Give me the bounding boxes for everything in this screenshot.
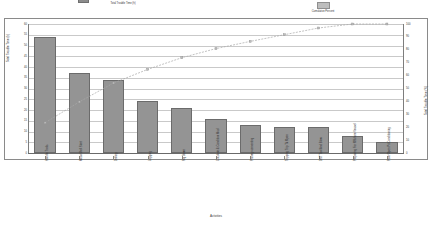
y-tick-label: 35 [24, 76, 27, 79]
x-tick-label: Drilling [115, 152, 118, 161]
cumulative-point [147, 68, 149, 70]
y-tick-label: 20 [24, 109, 27, 112]
y-tick-label: 55 [24, 33, 27, 36]
x-tick-labels: Handle TrailsMeso Well StartDrillingLogg… [28, 156, 404, 214]
cumulative-point [386, 23, 388, 25]
y-tick-label-right: 40 [406, 100, 409, 103]
cumulative-point [215, 48, 217, 50]
cumulative-point [352, 23, 354, 25]
chart-legend: Total Trouble Time (h) Cumulative Percen… [0, 2, 432, 18]
y-tick-label-right: 70 [406, 61, 409, 64]
y-tick-label: 0 [26, 152, 28, 155]
y-tick-label: 5 [26, 141, 28, 144]
cumulative-point [249, 40, 251, 42]
x-tick-label: Rig Down [183, 149, 186, 161]
x-tick-label: DST Tool And Blow [320, 137, 323, 161]
legend-label-line: Cumulative Percent [278, 10, 368, 13]
y-tick-label-right: 90 [406, 35, 409, 38]
x-tick-label: Tripping Trip Tk Open [286, 134, 289, 161]
pareto-chart: Total Trouble Time (h) Cumulative Percen… [0, 0, 432, 233]
x-tick-label: Handle Trails [46, 145, 49, 161]
cumulative-point [283, 34, 285, 36]
legend-swatch-bar-icon [78, 0, 89, 3]
y-tick-label: 50 [24, 44, 27, 47]
y-tick-label: 10 [24, 130, 27, 133]
y-tick-label: 15 [24, 119, 27, 122]
x-tick-label: Primary cementing [251, 138, 254, 161]
y-tick-label-right: 10 [406, 139, 409, 142]
y-tick-label-right: 20 [406, 126, 409, 129]
y-tick-label-right: 80 [406, 48, 409, 51]
cumulative-point [78, 101, 80, 103]
legend-swatch-line-icon [317, 2, 330, 9]
y-tick-label: 60 [24, 23, 27, 26]
y-tick-label-right: 50 [406, 87, 409, 90]
x-tick-label: Preparing For Offshore Vessel [354, 123, 357, 161]
legend-item-line: Cumulative Percent [278, 2, 368, 13]
x-tick-label: Circulate & Condition Mud [217, 129, 220, 162]
y-tick-label: 40 [24, 66, 27, 69]
y-tick-label-right: 0 [406, 152, 408, 155]
cumulative-point [44, 122, 46, 124]
x-tick-label: Logging [149, 151, 152, 161]
legend-item-bar: Total Trouble Time (h) [78, 2, 168, 5]
cumulative-point [181, 57, 183, 59]
cumulative-line [45, 24, 387, 123]
legend-label-bar: Total Trouble Time (h) [78, 2, 168, 5]
y-tick-label: 25 [24, 98, 27, 101]
cumulative-point [318, 27, 320, 29]
cumulative-point [113, 82, 115, 84]
x-axis-title: Activities [0, 214, 432, 218]
y-axis-title-right: Total Trouble Time (%) [424, 86, 428, 115]
y-axis-title: Total Trouble Time (h) [6, 34, 10, 62]
y-tick-label: 45 [24, 55, 27, 58]
x-tick-label: Pore Open Pit Conditioning [388, 127, 391, 161]
y-tick-label: 30 [24, 87, 27, 90]
y-tick-label-right: 100 [406, 23, 410, 26]
y-tick-label-right: 30 [406, 113, 409, 116]
y-tick-label-right: 60 [406, 74, 409, 77]
